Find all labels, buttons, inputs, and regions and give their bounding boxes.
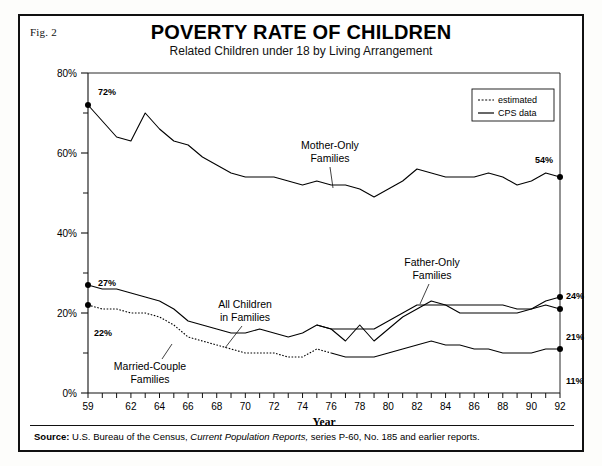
x-tick-label-92: 92	[554, 401, 566, 412]
x-tick-label-74: 74	[297, 401, 309, 412]
legend-label-estimated: estimated	[498, 95, 537, 105]
endpoint-marker-father-only-families-end	[557, 294, 563, 300]
y-tick-label-60: 60%	[57, 148, 77, 159]
source-line: Source: U.S. Bureau of the Census, Curre…	[34, 431, 570, 442]
x-axis-ticks	[88, 393, 560, 398]
x-tick-label-76: 76	[326, 401, 338, 412]
leader-line-married-couple	[162, 344, 172, 359]
x-tick-label-84: 84	[440, 401, 452, 412]
annotation-all-children: All Children in Families	[218, 298, 272, 348]
source-text-1: U.S. Bureau of the Census,	[72, 431, 188, 442]
x-tick-label-88: 88	[497, 401, 509, 412]
endpoint-marker-mother-only-families-end	[557, 174, 563, 180]
x-tick-label-80: 80	[383, 401, 395, 412]
label-all-children-end: 21%	[566, 332, 584, 342]
label-father-only-end: 24%	[566, 291, 584, 301]
y-tick-label-40: 40%	[57, 228, 77, 239]
plot-area: 80% 60% 40% 20% 0% 596264666870727476788…	[20, 16, 586, 454]
annotation-all-children-line1: All Children	[218, 298, 272, 310]
label-all-children-start: 27%	[98, 278, 116, 288]
endpoint-value-labels: 72% 54% 27% 21% 24% 22% 11%	[94, 87, 584, 386]
legend: estimated CPS data	[472, 89, 554, 121]
source-text-2: series P-60, No. 185 and earlier reports…	[311, 431, 480, 442]
source-italic: Current Population Reports,	[190, 431, 308, 442]
x-tick-label-78: 78	[354, 401, 366, 412]
label-mother-only-end: 54%	[535, 155, 553, 165]
y-tick-label-0: 0%	[63, 388, 78, 399]
endpoint-marker-all-children-in-families-end	[557, 306, 563, 312]
series-line-all-children-in-families	[88, 285, 560, 337]
legend-label-cps-data: CPS data	[498, 108, 537, 118]
annotation-father-only: Father-Only Families	[404, 256, 460, 304]
x-tick-label-82: 82	[411, 401, 423, 412]
annotation-father-only-line2: Families	[412, 269, 451, 281]
annotation-mother-only-line1: Mother-Only	[301, 139, 360, 151]
x-tick-label-68: 68	[211, 401, 223, 412]
y-tick-label-80: 80%	[57, 68, 77, 79]
series-line-married-couple-families-estimated	[88, 305, 331, 357]
leader-line-all-children	[225, 326, 242, 348]
x-tick-label-86: 86	[469, 401, 481, 412]
annotation-married-couple: Married-Couple Families	[114, 344, 187, 385]
figure-page: Fig. 2 POVERTY RATE OF CHILDREN Related …	[0, 0, 602, 466]
leader-line-father-only	[420, 284, 429, 304]
y-axis-tick-labels: 80% 60% 40% 20% 0%	[57, 68, 77, 399]
annotation-married-couple-line1: Married-Couple	[114, 360, 187, 372]
source-divider	[30, 425, 574, 426]
y-axis-ticks	[81, 73, 88, 393]
figure-frame: Fig. 2 POVERTY RATE OF CHILDREN Related …	[18, 14, 584, 452]
endpoint-marker-mother-only-families-start	[85, 102, 91, 108]
source-label: Source:	[34, 431, 69, 442]
x-tick-label-64: 64	[154, 401, 166, 412]
label-married-couple-start: 22%	[94, 328, 112, 338]
x-axis-tick-labels: 5962646668707274767880828486889092	[82, 401, 566, 412]
series-line-married-couple-families	[331, 341, 560, 357]
endpoint-marker-all-children-in-families-start	[85, 282, 91, 288]
annotation-married-couple-line2: Families	[130, 373, 169, 385]
series-line-father-only-families	[317, 297, 560, 341]
annotation-mother-only-line2: Families	[310, 152, 349, 164]
label-mother-only-start: 72%	[98, 87, 116, 97]
chart-svg: 80% 60% 40% 20% 0% 596264666870727476788…	[20, 16, 586, 454]
x-tick-label-70: 70	[240, 401, 252, 412]
x-tick-label-90: 90	[526, 401, 538, 412]
annotation-mother-only: Mother-Only Families	[301, 139, 360, 188]
x-axis-title: Year	[313, 416, 336, 428]
x-tick-label-72: 72	[268, 401, 280, 412]
x-tick-label-62: 62	[125, 401, 137, 412]
x-tick-label-59: 59	[82, 401, 94, 412]
annotation-father-only-line1: Father-Only	[404, 256, 460, 268]
annotation-all-children-line2: in Families	[220, 311, 270, 323]
x-tick-label-66: 66	[183, 401, 195, 412]
label-married-couple-end: 11%	[566, 376, 584, 386]
endpoint-marker-married-couple-families-start	[85, 302, 91, 308]
y-tick-label-20: 20%	[57, 308, 77, 319]
endpoint-marker-married-couple-families-end	[557, 346, 563, 352]
